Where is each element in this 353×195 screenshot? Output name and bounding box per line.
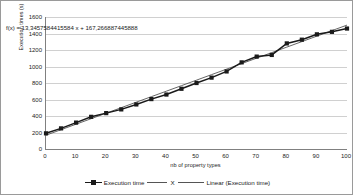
legend-divider-rule-right <box>178 182 204 183</box>
y-axis-tick-labels: 02004006008001000120014001600 <box>15 13 42 149</box>
data-point-marker <box>285 41 289 45</box>
data-point-marker <box>270 53 274 57</box>
y-tick-label: 200 <box>15 129 42 137</box>
data-point-marker <box>89 115 93 119</box>
x-tick-label: 60 <box>211 152 241 161</box>
legend-marker-icon <box>85 179 102 186</box>
y-tick-label: 800 <box>15 79 42 87</box>
y-tick-label: 1600 <box>15 13 42 21</box>
data-point-marker <box>209 76 213 80</box>
y-tick-label: 1000 <box>15 63 42 71</box>
x-tick-label: 90 <box>301 152 331 161</box>
data-point-marker <box>59 126 63 130</box>
legend-item-execution-time: Execution time <box>85 179 145 186</box>
data-point-marker <box>134 102 138 106</box>
data-point-marker <box>149 97 153 101</box>
data-point-marker <box>345 26 349 30</box>
x-tick-label: 50 <box>181 152 211 161</box>
execution-time-line-chart: Execution times (s) 02004006008001000120… <box>0 0 353 195</box>
data-point-marker <box>255 55 259 59</box>
legend-item-linear-execution-time: Linear (Execution time) <box>207 179 271 186</box>
x-axis-tick-labels: 0102030405060708090100 <box>45 152 346 162</box>
trendline-equation-annotation: f(x) = 13,3457584415584 x + 167,26688744… <box>6 24 138 31</box>
x-axis-title: nb of property types <box>45 162 346 168</box>
y-tick-label: 1200 <box>15 46 42 54</box>
x-tick-label: 30 <box>120 152 150 161</box>
x-tick-label: 0 <box>30 152 60 161</box>
data-point-marker <box>164 92 168 96</box>
x-tick-label: 80 <box>271 152 301 161</box>
data-point-marker <box>104 111 108 115</box>
plot-series-svg <box>46 17 347 149</box>
x-tick-label: 100 <box>331 152 353 161</box>
data-point-marker <box>330 30 334 34</box>
data-point-marker <box>179 87 183 91</box>
legend-label-linear-execution-time: Linear (Execution time) <box>207 179 271 186</box>
data-point-marker <box>240 60 244 64</box>
data-point-marker <box>225 69 229 73</box>
data-point-marker <box>315 32 319 36</box>
chart-legend: Execution time X Linear (Execution time) <box>1 175 353 189</box>
legend-label-execution-time: Execution time <box>104 179 145 186</box>
x-tick-label: 70 <box>241 152 271 161</box>
data-point-marker <box>194 81 198 85</box>
data-point-marker <box>119 107 123 111</box>
legend-label-x: X <box>170 179 174 186</box>
x-tick-label: 10 <box>60 152 90 161</box>
x-tick-label: 40 <box>150 152 180 161</box>
x-tick-label: 20 <box>90 152 120 161</box>
y-tick-label: 600 <box>15 96 42 104</box>
y-tick-label: 400 <box>15 112 42 120</box>
data-point-marker <box>300 38 304 42</box>
data-point-marker <box>74 121 78 125</box>
legend-divider-rule-left <box>147 182 167 183</box>
plot-area <box>45 17 347 150</box>
data-point-marker <box>44 131 48 135</box>
